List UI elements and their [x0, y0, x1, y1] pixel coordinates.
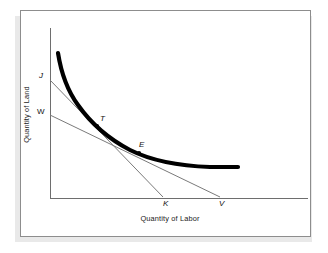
isocost-line-wv [50, 115, 220, 197]
isocost-line-jk [50, 80, 163, 197]
label-e: E [139, 140, 144, 149]
label-t: T [100, 114, 105, 123]
tangency-marker-e [137, 151, 141, 155]
y-axis-title: Quantity of Land [22, 60, 31, 170]
label-j: J [39, 71, 43, 80]
x-axis-title: Quantity of Labor [105, 214, 235, 223]
figure-screenshot: J W T E K V Quantity of Labor Quantity o… [0, 0, 328, 253]
tangency-marker-t [95, 124, 99, 128]
label-k: K [163, 199, 168, 208]
isoquant-curve [58, 53, 238, 167]
label-w: W [37, 107, 45, 116]
label-v: V [219, 199, 224, 208]
